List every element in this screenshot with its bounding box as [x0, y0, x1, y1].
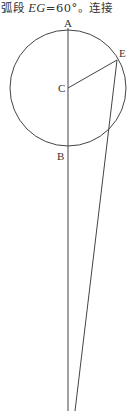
label-c: C — [58, 82, 65, 94]
label-e: E — [119, 47, 126, 59]
geometry-figure: A C B E — [0, 0, 127, 412]
label-a: A — [64, 17, 72, 29]
label-b: B — [57, 150, 64, 162]
radius-ce — [68, 60, 117, 88]
line-from-e — [75, 60, 117, 411]
